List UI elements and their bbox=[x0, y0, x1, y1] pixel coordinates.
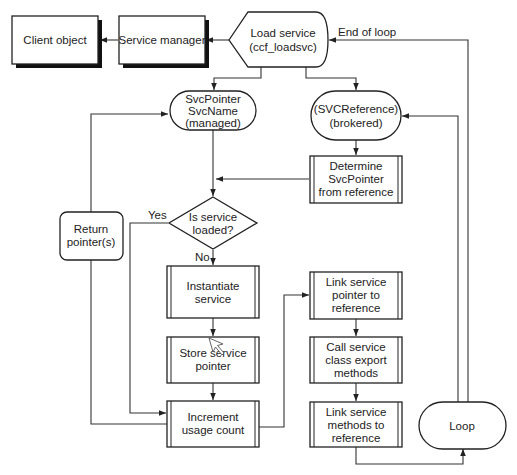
decision-line2: loaded? bbox=[193, 224, 234, 236]
determine-line1: Determine bbox=[329, 160, 382, 172]
node-load-service: Load service (ccf_loadsvc) bbox=[229, 12, 328, 67]
node-determine-pointer: Determine SvcPointer from reference bbox=[310, 156, 402, 203]
decision-line1: Is service bbox=[189, 211, 238, 223]
call-export-line2: class export bbox=[325, 354, 387, 366]
determine-line2: SvcPointer bbox=[328, 173, 384, 185]
instantiate-line1: Instantiate bbox=[186, 280, 239, 292]
brokered-line1: (SVCReference) bbox=[314, 103, 399, 115]
node-increment-usage: Increment usage count bbox=[167, 401, 259, 447]
increment-line1: Increment bbox=[187, 411, 239, 423]
increment-line2: usage count bbox=[182, 424, 245, 436]
no-label: No bbox=[195, 251, 210, 263]
return-line2: pointer(s) bbox=[67, 236, 116, 248]
node-svc-brokered: (SVCReference) (brokered) bbox=[311, 91, 401, 140]
connectors bbox=[91, 40, 468, 464]
edge-load-to-brokered bbox=[306, 67, 356, 90]
service-manager-label: Service manager bbox=[119, 34, 206, 46]
node-link-pointer: Link service pointer to reference bbox=[310, 272, 402, 319]
node-link-methods: Link service methods to reference bbox=[310, 402, 402, 447]
determine-line3: from reference bbox=[319, 186, 394, 198]
link-pointer-line1: Link service bbox=[326, 276, 387, 288]
link-methods-line3: reference bbox=[332, 432, 381, 444]
link-pointer-line2: pointer to bbox=[332, 289, 380, 301]
edge-increment-to-link bbox=[259, 295, 309, 427]
end-of-loop-label: End of loop bbox=[338, 26, 396, 38]
flowchart-canvas: End of loop Yes No Client object Service… bbox=[0, 0, 517, 475]
edge-decision-yes bbox=[130, 223, 168, 413]
managed-line3: (managed) bbox=[185, 117, 241, 129]
loop-label: Loop bbox=[449, 420, 475, 432]
node-loop: Loop bbox=[419, 402, 506, 449]
node-service-manager: Service manager bbox=[119, 16, 209, 68]
node-client-object: Client object bbox=[12, 16, 102, 68]
node-instantiate-service: Instantiate service bbox=[167, 266, 259, 318]
edge-return-to-managed bbox=[91, 114, 168, 212]
link-pointer-line3: reference bbox=[332, 302, 381, 314]
edge-load-to-managed bbox=[214, 67, 261, 90]
link-methods-line2: methods to bbox=[328, 419, 385, 431]
instantiate-line2: service bbox=[195, 293, 231, 305]
node-is-service-loaded: Is service loaded? bbox=[169, 197, 257, 249]
edge-loop-to-brokered bbox=[402, 116, 458, 422]
node-svc-managed: SvcPointer SvcName (managed) bbox=[170, 91, 256, 130]
node-call-export: Call service class export methods bbox=[310, 337, 402, 383]
managed-line2: SvcName bbox=[188, 105, 238, 117]
yes-label: Yes bbox=[148, 209, 167, 221]
link-methods-line1: Link service bbox=[326, 406, 387, 418]
return-line1: Return bbox=[74, 223, 109, 235]
node-return-pointers: Return pointer(s) bbox=[60, 212, 123, 260]
client-object-label: Client object bbox=[23, 34, 87, 46]
edge-increment-to-return bbox=[91, 253, 167, 424]
call-export-line1: Call service bbox=[326, 341, 385, 353]
brokered-line2: (brokered) bbox=[329, 117, 382, 129]
store-line2: pointer bbox=[195, 360, 230, 372]
call-export-line3: methods bbox=[334, 367, 378, 379]
load-service-line1: Load service bbox=[250, 27, 315, 39]
managed-line1: SvcPointer bbox=[185, 93, 241, 105]
load-service-line2: (ccf_loadsvc) bbox=[249, 41, 317, 53]
